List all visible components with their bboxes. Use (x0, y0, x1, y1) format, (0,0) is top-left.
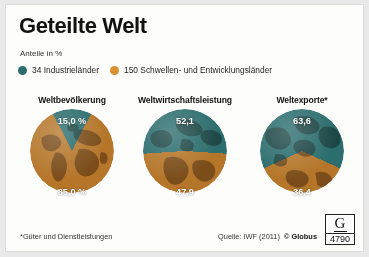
legend-item-industrie: 34 Industrieländer (18, 65, 99, 75)
legend-swatch-icon-teal (18, 66, 27, 75)
charts-row: Weltbevölkerung (6, 95, 364, 215)
chart-weltwirtschaftsleistung: Weltwirtschaftsleistung (125, 95, 245, 193)
chart-title-1: Weltbevölkerung (12, 95, 132, 105)
logo-underline-icon (334, 231, 347, 232)
pie-wrap-2: 52,1 (143, 109, 227, 193)
logo-letter: G (326, 215, 354, 231)
source-text: Quelle: IWF (2011) (218, 232, 280, 241)
infographic-card: Geteilte Welt Anteile in % 34 Industriel… (5, 4, 364, 252)
legend-item-schwellen: 150 Schwellen- und Entwicklungsländer (110, 65, 272, 75)
copyright-text: © Globus (284, 232, 317, 241)
pie-label-1-orange: 85,0 % (12, 187, 132, 197)
footnote: *Güter und Dienstleistungen (20, 232, 112, 241)
logo-number: 4790 (326, 233, 354, 244)
pie-label-2-teal: 52,1 (143, 116, 227, 126)
pie-label-1-teal: 15,0 % (30, 116, 114, 126)
legend-label-schwellen: 150 Schwellen- und Entwicklungsländer (124, 65, 272, 75)
pie-label-3-orange: 36,4 (242, 187, 362, 197)
pie-wrap-1: 15,0 % (30, 109, 114, 193)
globus-logo: G 4790 (325, 214, 355, 245)
chart-weltbevoelkerung: Weltbevölkerung (12, 95, 132, 193)
legend-swatch-icon-orange (110, 66, 119, 75)
legend-label-industrie: 34 Industrieländer (32, 65, 99, 75)
pie-label-2-orange: 47,9 (125, 187, 245, 197)
chart-weltexporte: Weltexporte* (242, 95, 362, 193)
chart-title-2: Weltwirtschaftsleistung (125, 95, 245, 105)
pie-label-3-teal: 63,6 (260, 116, 344, 126)
source-line: Quelle: IWF (2011) © Globus (218, 232, 317, 241)
subtitle: Anteile in % (20, 49, 62, 58)
legend: 34 Industrieländer 150 Schwellen- und En… (18, 65, 283, 75)
page-title: Geteilte Welt (19, 14, 147, 37)
pie-wrap-3: 63,6 (260, 109, 344, 193)
chart-title-3: Weltexporte* (242, 95, 362, 105)
